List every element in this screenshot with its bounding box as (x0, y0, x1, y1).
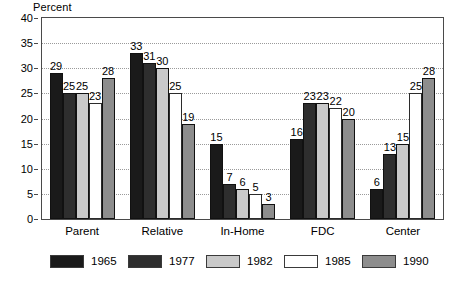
bar[interactable] (329, 108, 342, 219)
legend-item[interactable]: 1965 (50, 252, 117, 270)
bar[interactable] (370, 189, 383, 219)
bar-group: 2925252328 (42, 18, 122, 219)
x-axis-category-label: Center (363, 224, 443, 238)
bar[interactable] (262, 204, 275, 219)
bar-value-label: 28 (420, 66, 438, 77)
bar[interactable] (130, 53, 143, 219)
bar-group: 3331302519 (122, 18, 202, 219)
x-axis-category-labels: ParentRelativeIn-HomeFDCCenter (42, 224, 443, 242)
legend-item[interactable]: 1990 (362, 252, 429, 270)
y-axis-tick-label: 10 (21, 163, 33, 174)
x-axis-category-label: FDC (283, 224, 363, 238)
y-axis-tick-label: 40 (21, 13, 33, 24)
legend-swatch (362, 255, 396, 268)
bar-value-label: 30 (153, 56, 171, 67)
legend-swatch (284, 255, 318, 268)
bar[interactable] (303, 103, 316, 219)
bar[interactable] (102, 78, 115, 219)
y-axis-tick-mark (34, 144, 38, 145)
legend-label: 1982 (247, 255, 273, 268)
legend-item[interactable]: 1985 (284, 252, 351, 270)
bar-value-label: 28 (99, 66, 117, 77)
bar-value-label: 15 (207, 132, 225, 143)
bar-group: 613152528 (363, 18, 443, 219)
y-axis-tick-label: 0 (27, 214, 33, 225)
x-axis-category-label: Parent (42, 224, 122, 238)
y-axis-tick-mark (34, 93, 38, 94)
bar[interactable] (290, 139, 303, 219)
y-axis-tick-mark (34, 219, 38, 220)
bar[interactable] (383, 154, 396, 219)
bar[interactable] (143, 63, 156, 219)
bar-group: 1623232220 (283, 18, 363, 219)
x-axis-category-label: Relative (122, 224, 202, 238)
legend-label: 1985 (325, 255, 351, 268)
legend-label: 1977 (169, 255, 195, 268)
y-axis-title: Percent (33, 1, 72, 14)
bar[interactable] (182, 124, 195, 219)
y-axis-tick-mark (34, 68, 38, 69)
y-axis-tick-mark (34, 169, 38, 170)
legend-label: 1965 (91, 255, 117, 268)
legend-swatch (50, 255, 84, 268)
legend-item[interactable]: 1982 (206, 252, 273, 270)
y-axis-tick-mark (34, 18, 38, 19)
bar-value-label: 29 (47, 61, 65, 72)
bar-value-label: 3 (259, 192, 277, 203)
bar[interactable] (236, 189, 249, 219)
legend-item[interactable]: 1977 (128, 252, 195, 270)
bar[interactable] (316, 103, 329, 219)
y-axis-tick-label: 35 (21, 38, 33, 49)
chart-legend: 19651977198219851990 (0, 252, 454, 276)
y-axis-tick-mark (34, 194, 38, 195)
legend-swatch (128, 255, 162, 268)
bar[interactable] (223, 184, 236, 219)
y-axis-tick-label: 15 (21, 138, 33, 149)
y-axis-tick-labels: 0510152025303540 (0, 17, 38, 220)
y-axis-tick-label: 30 (21, 63, 33, 74)
bar-value-label: 20 (340, 107, 358, 118)
bar-group: 157653 (202, 18, 282, 219)
bar[interactable] (63, 93, 76, 219)
bar[interactable] (396, 144, 409, 219)
y-axis-tick-mark (34, 119, 38, 120)
bar[interactable] (50, 73, 63, 219)
y-axis-tick-label: 5 (27, 188, 33, 199)
bar[interactable] (76, 93, 89, 219)
legend-label: 1990 (403, 255, 429, 268)
bar-value-label: 19 (179, 112, 197, 123)
x-axis-category-label: In-Home (202, 224, 282, 238)
bar-chart: Percent 0510152025303540 292525232833313… (0, 0, 454, 286)
bar[interactable] (89, 103, 102, 219)
bar[interactable] (422, 78, 435, 219)
legend-swatch (206, 255, 240, 268)
bars-layer: 2925252328333130251915765316232322206131… (42, 18, 443, 219)
bar[interactable] (342, 119, 355, 220)
bar[interactable] (409, 93, 422, 219)
y-axis-tick-mark (34, 43, 38, 44)
y-axis-tick-label: 25 (21, 88, 33, 99)
bar-value-label: 25 (166, 81, 184, 92)
y-axis-tick-label: 20 (21, 113, 33, 124)
